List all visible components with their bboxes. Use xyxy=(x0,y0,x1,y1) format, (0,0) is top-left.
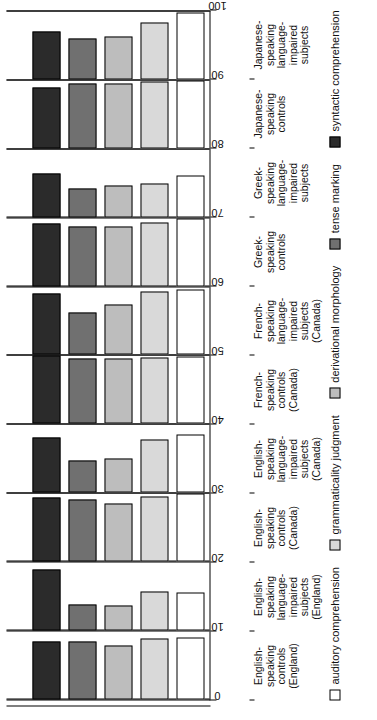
bar-row xyxy=(172,218,208,286)
axis-tick-label: 80 xyxy=(211,137,223,148)
bar-row xyxy=(64,355,100,423)
bar xyxy=(32,173,60,217)
bar xyxy=(140,81,168,148)
bar-row xyxy=(172,631,208,699)
bar xyxy=(104,458,132,493)
bar-row xyxy=(172,355,208,423)
bar-row xyxy=(100,493,136,561)
bar-row xyxy=(64,218,100,286)
bar xyxy=(104,358,132,424)
bar-group xyxy=(6,218,209,287)
legend-item: syntactic comprehension xyxy=(328,10,340,147)
plot-area-wrapper: 0102030405060708090100 xyxy=(6,10,250,700)
bar-row xyxy=(28,562,64,630)
bar-row xyxy=(64,149,100,217)
bar xyxy=(68,358,96,423)
axis-tick-label: 20 xyxy=(211,551,223,562)
bar-row xyxy=(64,562,100,630)
bar xyxy=(68,83,96,148)
bar xyxy=(32,87,60,148)
category-label: Greek-speakingcontrols xyxy=(252,215,287,289)
bar xyxy=(68,641,96,699)
bar-row xyxy=(64,287,100,355)
bar-group xyxy=(6,355,209,424)
legend-label: auditory comprehension xyxy=(328,567,340,684)
bar xyxy=(140,357,168,424)
bar-row xyxy=(136,493,172,561)
bar-row xyxy=(172,424,208,492)
category-label: Greek-speakinglanguage-impairedsubjects xyxy=(252,146,310,220)
category-label-cell: French-speakingcontrols(Canada) xyxy=(250,355,324,424)
category-label-cell: French-speakinglanguage-impairedsubjects… xyxy=(250,286,324,355)
bar xyxy=(176,592,204,630)
bar-group xyxy=(6,149,209,218)
bar-group xyxy=(6,11,209,80)
bar xyxy=(32,569,60,630)
bar xyxy=(104,645,132,699)
bar xyxy=(140,183,168,217)
chart-page: 0102030405060708090100 English-speakingc… xyxy=(0,0,377,720)
bar xyxy=(176,356,204,423)
bar-row xyxy=(28,631,64,699)
legend-item: derivational morphology xyxy=(328,265,340,398)
bar-group xyxy=(6,287,209,356)
bar xyxy=(104,36,132,79)
value-axis-line xyxy=(6,705,210,706)
bar xyxy=(104,304,132,355)
category-label-cell: Greek-speakingcontrols xyxy=(250,217,324,286)
bar xyxy=(176,218,204,285)
bar-row xyxy=(172,80,208,148)
legend-swatch-icon xyxy=(329,238,340,249)
bar-row xyxy=(172,493,208,561)
legend-label: grammaticality judgment xyxy=(328,415,340,534)
bar-group xyxy=(6,493,209,562)
category-label-cell: Japanese-speakingcontrols xyxy=(250,79,324,148)
bar xyxy=(32,641,60,699)
category-label: French-speakinglanguage-impairedsubjects… xyxy=(252,284,321,358)
bar-row xyxy=(136,631,172,699)
legend-label: syntactic comprehension xyxy=(328,10,340,131)
category-label-cell: Japanese-speakinglanguage-impairedsubjec… xyxy=(250,10,324,79)
bar-row xyxy=(28,218,64,286)
category-label: English-speakinglanguage-impairedsubject… xyxy=(252,560,321,634)
bar-group xyxy=(6,562,209,631)
bar xyxy=(140,22,168,78)
bar-row xyxy=(28,493,64,561)
category-label: English-speakingcontrols(England) xyxy=(252,629,298,703)
bar xyxy=(68,38,96,79)
legend-label: tense marking xyxy=(328,164,340,233)
bar-row xyxy=(136,218,172,286)
bar xyxy=(176,80,204,148)
bar-row xyxy=(172,149,208,217)
bar-row xyxy=(64,631,100,699)
bar xyxy=(32,31,60,79)
bar-row xyxy=(100,80,136,148)
bar-row xyxy=(136,287,172,355)
bar xyxy=(176,175,204,217)
bar xyxy=(32,223,60,285)
bar-row xyxy=(64,11,100,79)
bar xyxy=(140,439,168,492)
bar-group xyxy=(6,631,209,699)
bar-row xyxy=(100,424,136,492)
bar xyxy=(32,437,60,492)
legend-swatch-icon xyxy=(329,689,340,700)
bar xyxy=(104,605,132,630)
category-label-cell: English-speakingcontrols(England) xyxy=(250,631,324,700)
bar-row xyxy=(136,80,172,148)
legend-item: auditory comprehension xyxy=(328,567,340,700)
bar-row xyxy=(100,11,136,79)
bar-row xyxy=(136,149,172,217)
legend-label: derivational morphology xyxy=(328,265,340,382)
category-label-cell: English-speakinglanguage-impairedsubject… xyxy=(250,562,324,631)
category-axis-labels: English-speakingcontrols(England)English… xyxy=(250,10,324,700)
axis-tick-label: 50 xyxy=(211,344,223,355)
value-axis: 0102030405060708090100 xyxy=(210,10,250,700)
bar-group xyxy=(6,424,209,493)
legend-item: grammaticality judgment xyxy=(328,415,340,550)
bar-row xyxy=(136,11,172,79)
bar-row xyxy=(136,355,172,423)
bar-row xyxy=(172,562,208,630)
category-label: English-speakinglanguage-impairedsubject… xyxy=(252,422,321,496)
bar-row xyxy=(100,562,136,630)
